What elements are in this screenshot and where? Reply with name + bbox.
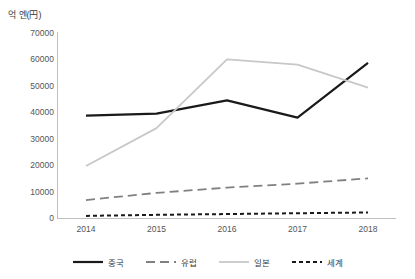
series-line [86, 212, 368, 215]
legend-swatch-icon [292, 257, 322, 267]
legend-swatch-icon [146, 257, 176, 267]
legend-label: 중국 [108, 256, 124, 268]
legend-item[interactable]: 유럽 [146, 256, 197, 268]
series-lines [58, 33, 396, 218]
x-axis-tick-label: 2018 [359, 224, 378, 234]
chart-legend: 중국유럽일본세계 [0, 252, 415, 272]
legend-item[interactable]: 중국 [73, 256, 124, 268]
legend-item[interactable]: 세계 [292, 256, 343, 268]
y-axis-tick-label: 50000 [6, 81, 54, 91]
series-line [86, 63, 368, 118]
y-axis-tick-labels: 010000200003000040000500006000070000 [3, 0, 54, 279]
legend-label: 세계 [327, 256, 343, 268]
legend-swatch-icon [73, 257, 103, 267]
y-axis-tick-label: 10000 [6, 187, 54, 197]
y-axis-tick-label: 40000 [6, 107, 54, 117]
line-chart: 억 엔(円) 010000200003000040000500006000070… [0, 0, 415, 279]
x-axis-tick-label: 2017 [288, 224, 307, 234]
legend-swatch-icon [219, 257, 249, 267]
y-axis-tick-label: 70000 [6, 28, 54, 38]
x-axis-tick-label: 2016 [218, 224, 237, 234]
x-axis-tick-labels: 20142015201620172018 [58, 224, 396, 238]
x-axis-tick-label: 2015 [147, 224, 166, 234]
series-line [86, 59, 368, 166]
y-axis-tick-label: 0 [6, 213, 54, 223]
legend-item[interactable]: 일본 [219, 256, 270, 268]
x-axis-line [57, 218, 396, 219]
y-axis-tick-label: 20000 [6, 160, 54, 170]
legend-label: 유럽 [181, 256, 197, 268]
y-axis-tick-label: 60000 [6, 54, 54, 64]
x-axis-tick-label: 2014 [77, 224, 96, 234]
series-line [86, 178, 368, 200]
y-axis-tick-label: 30000 [6, 134, 54, 144]
plot-area [58, 33, 396, 218]
legend-label: 일본 [254, 256, 270, 268]
